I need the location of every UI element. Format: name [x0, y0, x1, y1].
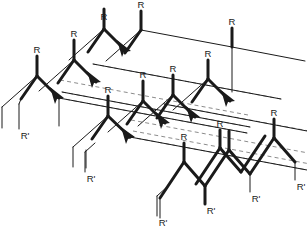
r-prime-label: R' [21, 130, 30, 141]
r-prime-label: R' [252, 193, 261, 204]
r-label: R [138, 0, 145, 10]
r-label: R [140, 69, 147, 80]
r-label: R [34, 44, 41, 55]
figure-background [0, 0, 307, 238]
r-label: R [105, 84, 112, 95]
r-label: R [229, 16, 236, 27]
r-label: R [71, 28, 78, 39]
r-prime-label: R' [159, 217, 168, 228]
molecular-structure-figure: R R R R R R R R R R R R R' R' R' R' R' R… [0, 0, 307, 238]
r-prime-label: R' [207, 205, 216, 216]
r-prime-label: R' [87, 173, 96, 184]
r-label: R [101, 11, 108, 22]
r-label: R [181, 131, 188, 142]
r-label: R [271, 107, 278, 118]
r-label: R [170, 63, 177, 74]
r-label: R [217, 118, 224, 129]
structure-canvas: R R R R R R R R R R R R R' R' R' R' R' R… [0, 0, 307, 238]
r-label: R [205, 48, 212, 59]
r-prime-label: R' [297, 181, 306, 192]
